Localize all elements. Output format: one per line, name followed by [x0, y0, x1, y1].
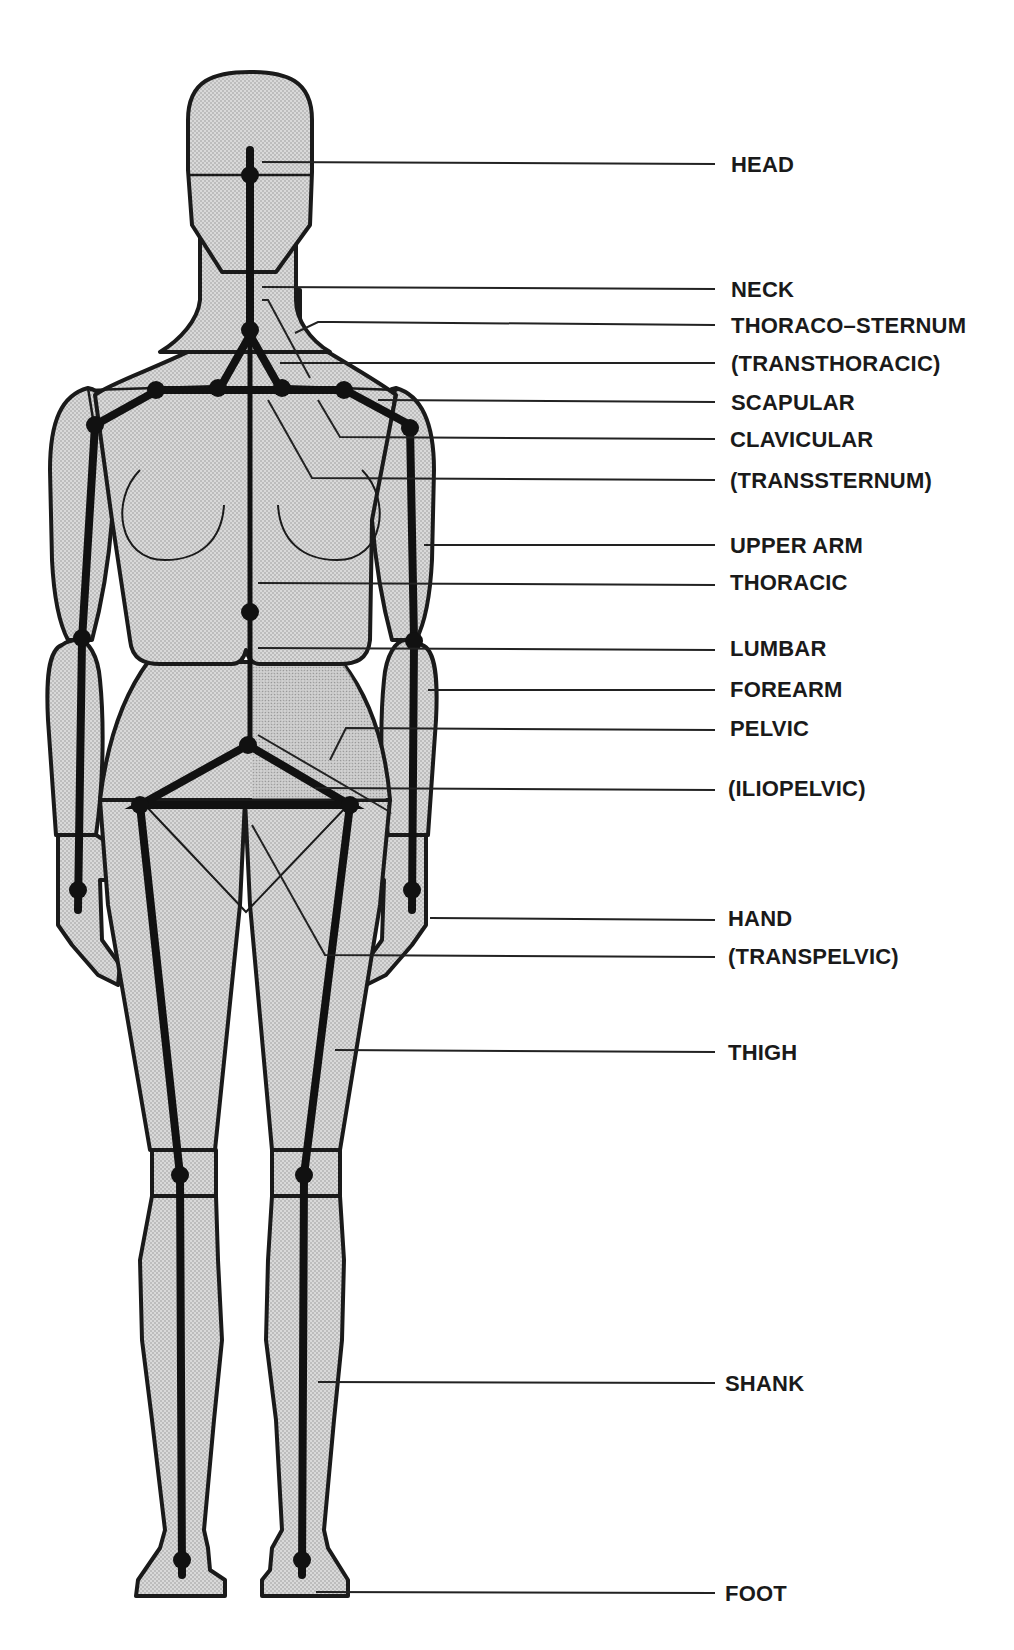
label-lumbar: LUMBAR [730, 636, 827, 661]
label-head: HEAD [731, 152, 794, 177]
label-forearm: FOREARM [730, 677, 843, 702]
label-transthoracic: (TRANSTHORACIC) [731, 351, 941, 376]
label-thigh: THIGH [728, 1040, 797, 1065]
body-segment-diagram: HEAD NECK THORACO–STERNUM (TRANSTHORACIC… [0, 0, 1014, 1650]
label-hand: HAND [728, 906, 792, 931]
label-foot: FOOT [725, 1581, 787, 1606]
label-scapular: SCAPULAR [731, 390, 855, 415]
left-leg [100, 800, 245, 1596]
label-thoracic: THORACIC [730, 570, 848, 595]
label-transpelvic: (TRANSPELVIC) [728, 944, 899, 969]
label-thoraco-sternum: THORACO–STERNUM [731, 313, 966, 338]
label-neck: NECK [731, 277, 794, 302]
pelvic-shading [252, 662, 386, 800]
label-transsternum: (TRANSSTERNUM) [730, 468, 932, 493]
segment-labels: HEAD NECK THORACO–STERNUM (TRANSTHORACIC… [725, 152, 966, 1606]
figure [47, 72, 436, 1596]
right-leg [245, 800, 390, 1596]
label-pelvic: PELVIC [730, 716, 809, 741]
label-shank: SHANK [725, 1371, 804, 1396]
label-iliopelvic: (ILIOPELVIC) [728, 776, 866, 801]
label-clavicular: CLAVICULAR [730, 427, 873, 452]
label-upper-arm: UPPER ARM [730, 533, 863, 558]
